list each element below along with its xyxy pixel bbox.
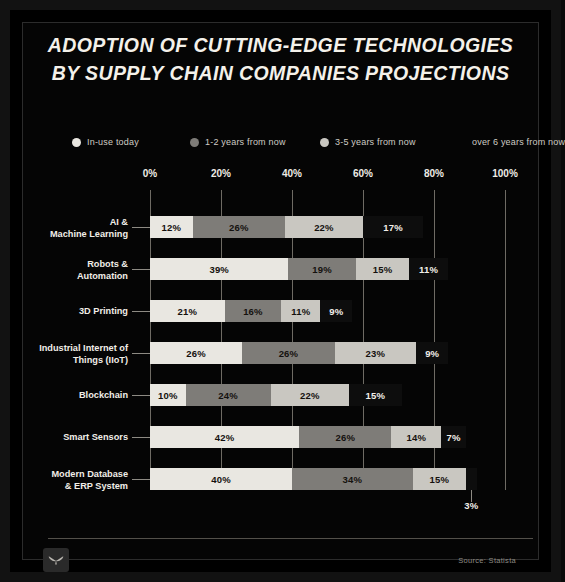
page-title: ADOPTION OF CUTTING-EDGE TECHNOLOGIES BY… — [10, 32, 551, 87]
bar-segment[interactable]: 3% — [466, 468, 477, 490]
table-row: 39%19%15%11% — [150, 258, 505, 280]
bar-segment[interactable]: 34% — [292, 468, 413, 490]
label-leader-line — [132, 395, 150, 396]
label-leader-line — [132, 269, 150, 270]
bar-segment[interactable]: 9% — [416, 342, 448, 364]
source-credit: Source: Statista — [458, 556, 516, 565]
category-label: Modern Database& ERP System — [10, 469, 128, 493]
legend-item-3[interactable]: over 6 years from now — [472, 134, 565, 150]
x-tick-label: 0% — [143, 168, 157, 179]
category-label-line: Modern Database — [10, 469, 128, 481]
legend-swatch-icon — [320, 138, 329, 147]
bar-value-label: 26% — [279, 348, 299, 359]
bar-segment[interactable]: 7% — [441, 426, 466, 448]
category-label-line: Smart Sensors — [10, 432, 128, 444]
legend-item-0[interactable]: In-use today — [72, 134, 139, 150]
category-label-line: Automation — [10, 271, 128, 283]
legend-item-1[interactable]: 1-2 years from now — [190, 134, 286, 150]
category-label: Robots &Automation — [10, 259, 128, 283]
bar-value-label: 7% — [446, 432, 460, 443]
bar-value-label: 11% — [419, 264, 438, 275]
category-label-line: Industrial Internet of — [10, 343, 128, 355]
legend-item-2[interactable]: 3-5 years from now — [320, 134, 416, 150]
bar-segment[interactable]: 22% — [285, 216, 363, 238]
legend-label: In-use today — [87, 137, 139, 147]
bar-segment[interactable]: 26% — [299, 426, 391, 448]
bar-value-label: 21% — [177, 306, 197, 317]
title-line-1: ADOPTION OF CUTTING-EDGE TECHNOLOGIES — [10, 32, 551, 60]
bar-value-label: 9% — [329, 306, 343, 317]
bar-segment[interactable]: 15% — [349, 384, 402, 406]
bar-segment[interactable]: 19% — [288, 258, 355, 280]
bar-segment[interactable]: 11% — [409, 258, 448, 280]
bar-segment[interactable]: 16% — [225, 300, 282, 322]
bar-value-label: 14% — [406, 432, 426, 443]
value-leader-line — [471, 490, 472, 502]
category-label-line: & ERP System — [10, 481, 128, 493]
category-label: 3D Printing — [10, 306, 128, 318]
bar-value-label: 17% — [383, 222, 403, 233]
legend-swatch-icon — [190, 138, 199, 147]
legend-label: over 6 years from now — [472, 137, 565, 147]
category-label-line: AI & — [10, 217, 128, 229]
bar-segment[interactable]: 26% — [150, 342, 242, 364]
category-label: AI &Machine Learning — [10, 217, 128, 241]
bar-segment[interactable]: 40% — [150, 468, 292, 490]
bar-segment[interactable]: 14% — [391, 426, 441, 448]
label-leader-line — [132, 311, 150, 312]
x-tick-label: 20% — [211, 168, 231, 179]
category-label-line: Robots & — [10, 259, 128, 271]
bar-segment[interactable]: 15% — [413, 468, 466, 490]
bar-value-label: 26% — [335, 432, 355, 443]
bar-segment[interactable]: 17% — [363, 216, 423, 238]
label-leader-line — [132, 479, 150, 480]
category-label-line: Blockchain — [10, 390, 128, 402]
bar-value-label: 34% — [343, 474, 363, 485]
bar-segment[interactable]: 39% — [150, 258, 288, 280]
bar-segment[interactable]: 15% — [356, 258, 409, 280]
gridline — [505, 190, 506, 490]
bar-value-label: 39% — [209, 264, 229, 275]
bar-value-label: 11% — [291, 306, 310, 317]
bar-segment[interactable]: 26% — [242, 342, 334, 364]
x-tick-label: 60% — [353, 168, 373, 179]
bar-value-label: 10% — [158, 390, 178, 401]
legend-swatch-icon — [72, 138, 81, 147]
bar-segment[interactable]: 21% — [150, 300, 225, 322]
table-row: 42%26%14%7% — [150, 426, 505, 448]
bar-value-label: 26% — [229, 222, 249, 233]
label-leader-line — [132, 227, 150, 228]
bar-value-label: 16% — [243, 306, 263, 317]
bar-segment[interactable]: 11% — [281, 300, 320, 322]
legend-label: 3-5 years from now — [335, 137, 416, 147]
bar-value-label: 15% — [373, 264, 393, 275]
table-row: 40%34%15%3% — [150, 468, 505, 490]
bar-segment[interactable]: 24% — [186, 384, 271, 406]
title-line-2: BY SUPPLY CHAIN COMPANIES PROJECTIONS — [10, 60, 551, 88]
bar-value-label: 12% — [161, 222, 181, 233]
bar-value-label: 15% — [366, 390, 386, 401]
category-label: Blockchain — [10, 390, 128, 402]
category-label: Smart Sensors — [10, 432, 128, 444]
x-tick-label: 40% — [282, 168, 302, 179]
bar-value-label: 19% — [312, 264, 332, 275]
bar-value-label: 40% — [211, 474, 231, 485]
bar-segment[interactable]: 23% — [335, 342, 417, 364]
table-row: 12%26%22%17% — [150, 216, 505, 238]
chart-plot-area: AI &Machine Learning12%26%22%17%Robots &… — [150, 190, 505, 490]
bar-segment[interactable]: 9% — [320, 300, 352, 322]
bar-value-label: 23% — [366, 348, 386, 359]
chart-legend: In-use today1-2 years from now3-5 years … — [72, 134, 542, 150]
bar-value-label: 15% — [430, 474, 450, 485]
bar-segment[interactable]: 22% — [271, 384, 349, 406]
table-row: 21%16%11%9% — [150, 300, 505, 322]
bar-value-label: 22% — [300, 390, 320, 401]
bar-segment[interactable]: 26% — [193, 216, 285, 238]
x-axis-ticks: 0%20%40%60%80%100% — [150, 168, 505, 182]
x-tick-label: 100% — [492, 168, 518, 179]
category-label-line: Machine Learning — [10, 229, 128, 241]
bar-segment[interactable]: 10% — [150, 384, 186, 406]
bar-segment[interactable]: 12% — [150, 216, 193, 238]
bar-value-label: 9% — [425, 348, 439, 359]
bar-segment[interactable]: 42% — [150, 426, 299, 448]
